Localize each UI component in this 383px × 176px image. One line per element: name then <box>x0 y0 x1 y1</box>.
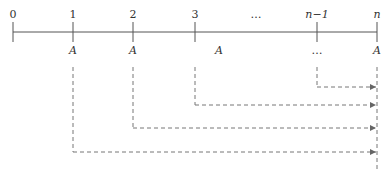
payment-label-1: A <box>129 45 137 56</box>
period-label-2: 2 <box>130 9 137 20</box>
period-label-3: 3 <box>192 9 199 20</box>
period-label-6: n <box>373 9 380 20</box>
payment-label-3: … <box>312 45 323 56</box>
period-label-0: 0 <box>10 9 17 20</box>
annuity-timeline-diagram <box>0 0 383 176</box>
cash-flow-arrows <box>73 67 377 172</box>
period-label-1: 1 <box>70 9 77 20</box>
period-label-5: n−1 <box>305 9 328 20</box>
payment-label-0: A <box>69 45 77 56</box>
payment-label-2: A <box>215 45 223 56</box>
time-axis <box>13 22 377 42</box>
period-label-4: … <box>251 9 262 20</box>
payment-label-4: A <box>373 45 381 56</box>
